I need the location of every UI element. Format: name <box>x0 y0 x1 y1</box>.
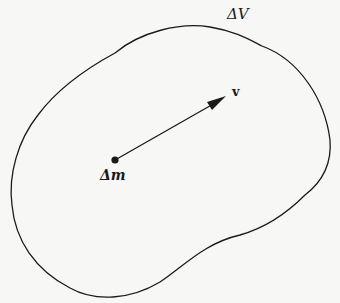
arrowhead-icon <box>207 96 226 110</box>
volume-boundary <box>11 26 330 297</box>
velocity-vector-shaft <box>115 103 215 160</box>
velocity-label: v <box>232 84 240 99</box>
mass-label: Δm <box>100 167 126 183</box>
volume-label: ΔV <box>227 5 249 23</box>
mass-point <box>111 156 118 163</box>
control-volume-diagram <box>0 0 340 303</box>
